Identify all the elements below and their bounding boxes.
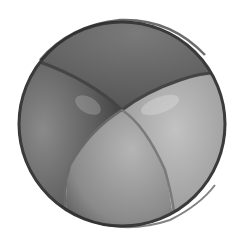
ball-illustration <box>0 0 244 245</box>
ball-icon <box>0 0 244 245</box>
